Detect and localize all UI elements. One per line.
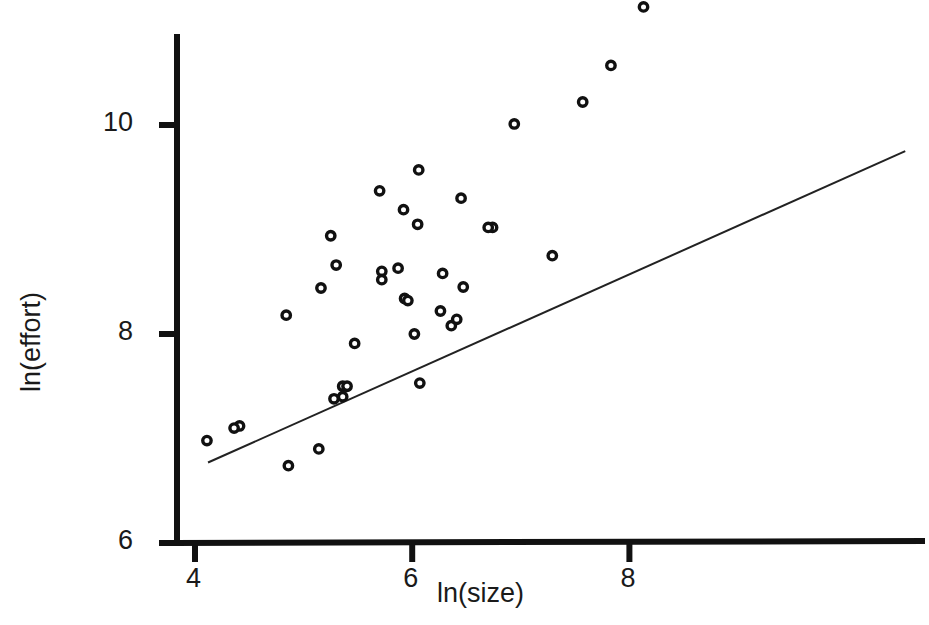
data-point-marker <box>459 283 467 291</box>
data-point-marker <box>548 251 556 259</box>
data-point-marker <box>510 120 518 128</box>
y-tick-label: 10 <box>103 107 133 138</box>
data-point-marker <box>315 445 323 453</box>
data-point-marker <box>375 187 383 195</box>
data-point-marker <box>579 98 587 106</box>
data-point-marker <box>394 264 402 272</box>
data-point-marker <box>436 307 444 315</box>
data-point-marker <box>607 61 615 69</box>
data-point-marker <box>378 275 386 283</box>
data-point-marker <box>343 382 351 390</box>
x-axis-line <box>174 541 925 543</box>
data-point-marker <box>416 379 424 387</box>
data-point-marker <box>350 339 358 347</box>
data-point-marker <box>282 311 290 319</box>
data-point-marker <box>332 261 340 269</box>
data-point-marker <box>639 3 647 11</box>
data-point-marker <box>404 296 412 304</box>
regression-line-path <box>208 151 905 462</box>
regression-line <box>208 151 905 462</box>
data-point-marker <box>438 269 446 277</box>
data-point-marker <box>457 194 465 202</box>
y-tick-label: 6 <box>118 525 133 556</box>
data-point-marker <box>203 436 211 444</box>
data-point-marker <box>330 395 338 403</box>
data-point-marker <box>317 284 325 292</box>
data-point-marker <box>284 461 292 469</box>
plot-canvas <box>0 0 929 625</box>
data-point-marker <box>484 223 492 231</box>
x-tick-label: 4 <box>186 563 201 594</box>
data-point-marker <box>410 330 418 338</box>
data-point-marker <box>399 205 407 213</box>
data-points <box>203 3 648 470</box>
x-tick-label: 6 <box>403 563 418 594</box>
data-point-marker <box>327 232 335 240</box>
scatter-plot-figure: 12 10 8 6 4 6 8 ln(size) ln(effort) <box>0 0 929 625</box>
data-point-marker <box>453 315 461 323</box>
data-point-marker <box>415 166 423 174</box>
data-point-marker <box>413 220 421 228</box>
y-tick-label: 8 <box>118 316 133 347</box>
x-axis-title: ln(size) <box>437 578 524 609</box>
y-axis-title: ln(effort) <box>16 292 47 392</box>
data-point-marker <box>230 424 238 432</box>
x-tick-label: 8 <box>620 563 635 594</box>
